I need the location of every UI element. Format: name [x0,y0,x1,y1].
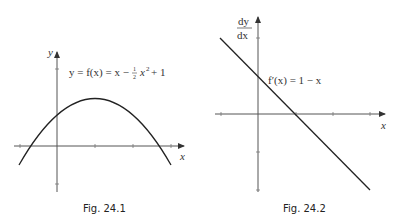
svg-text:2: 2 [146,65,150,73]
figure-24-2: dy dx x f′(x) = 1 − x Fig. 24.2 [215,15,386,214]
equation-label: y = f(x) = x − 1 2 x 2 + 1 [69,65,165,80]
parabola-curve [19,99,171,166]
x-axis-label: x [179,150,185,162]
equation-label: f′(x) = 1 − x [268,74,322,87]
svg-text:+ 1: + 1 [151,66,165,78]
figure-24-1: y x y = f(x) = x − 1 2 x 2 + 1 Fig. 24.1 [14,46,185,214]
svg-text:dx: dx [237,29,249,41]
svg-text:dy: dy [238,15,250,27]
x-axis-label: x [380,119,386,131]
svg-text:y = f(x) = x −: y = f(x) = x − [69,66,129,79]
y-axis-label: dy dx [237,15,252,41]
figure-caption-2: Fig. 24.2 [283,203,326,214]
y-axis-label: y [47,46,53,58]
svg-text:x: x [139,66,145,78]
svg-text:2: 2 [133,74,136,80]
svg-text:1: 1 [133,66,136,72]
figure-caption-1: Fig. 24.1 [83,203,126,214]
figure-canvas: y x y = f(x) = x − 1 2 x 2 + 1 Fig. 24.1 [0,0,399,221]
